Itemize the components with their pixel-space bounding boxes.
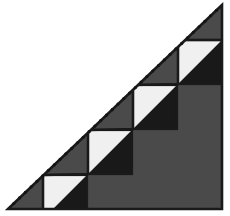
hypotenuse-dot	[157, 64, 160, 67]
hypotenuse-dot	[145, 75, 148, 78]
hypotenuse-dot	[82, 136, 85, 139]
hypotenuse-dot	[93, 125, 96, 128]
hypotenuse-dot	[30, 185, 33, 188]
hypotenuse-dot	[47, 169, 50, 172]
hypotenuse-dot	[35, 180, 38, 183]
hypotenuse-dot	[111, 108, 114, 111]
hypotenuse-dot	[169, 53, 172, 56]
hypotenuse-dot	[41, 174, 44, 177]
hypotenuse-dot	[105, 114, 108, 117]
hypotenuse-dot	[87, 130, 90, 133]
hypotenuse-dot	[140, 80, 143, 83]
stepped-triangle-figure	[0, 0, 230, 216]
hypotenuse-dot	[116, 103, 119, 106]
figure-canvas	[0, 0, 230, 216]
hypotenuse-dot	[24, 191, 27, 194]
hypotenuse-dot	[64, 152, 67, 155]
hypotenuse-dot	[174, 47, 177, 50]
hypotenuse-dot	[209, 14, 212, 17]
hypotenuse-dot	[163, 58, 166, 61]
hypotenuse-dot	[215, 9, 218, 12]
hypotenuse-dot	[99, 119, 102, 122]
hypotenuse-dot	[197, 25, 200, 28]
hypotenuse-dot	[128, 91, 131, 94]
hypotenuse-dot	[192, 31, 195, 34]
hypotenuse-dot	[18, 196, 21, 199]
hypotenuse-dot	[203, 20, 206, 23]
hypotenuse-dot	[151, 69, 154, 72]
step-square-3	[88, 130, 132, 174]
hypotenuse-dot	[186, 36, 189, 39]
step-square-1	[178, 40, 222, 84]
step-square-2	[133, 85, 177, 129]
hypotenuse-dot	[134, 86, 137, 89]
hypotenuse-dot	[53, 163, 56, 166]
hypotenuse-dot	[180, 42, 183, 45]
hypotenuse-dot	[59, 158, 62, 161]
hypotenuse-dot	[76, 141, 79, 144]
hypotenuse-dot	[122, 97, 125, 100]
hypotenuse-dot	[70, 147, 73, 150]
hypotenuse-dot	[12, 202, 15, 205]
